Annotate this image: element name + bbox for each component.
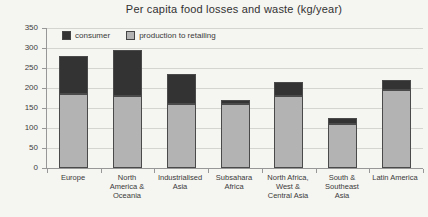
bar-segment-consumer [221,100,250,104]
x-axis-label: Europe [46,173,100,182]
x-axis-label: Industrialised Asia [153,173,207,191]
gridline [47,68,423,69]
bar-segment-production [221,104,250,168]
y-tick [42,108,46,109]
legend-label-production: production to retailing [139,31,216,40]
bar [167,74,196,168]
x-axis-label: North America & Oceania [100,173,154,200]
x-axis-label: Latin America [368,173,422,182]
y-axis-label: 100 [25,123,38,132]
plot-area [46,28,423,169]
y-tick [42,128,46,129]
y-axis-label: 50 [29,143,38,152]
bar [328,118,357,168]
x-axis-label: South & Southeast Asia [315,173,369,200]
bar-segment-production [274,96,303,168]
bar-segment-production [167,104,196,168]
bar-segment-consumer [328,118,357,124]
bar [274,82,303,168]
x-axis-labels: EuropeNorth America & OceaniaIndustriali… [46,173,422,213]
legend-item-production: production to retailing [126,31,216,40]
y-tick [42,88,46,89]
gridline [47,28,423,29]
y-tick [42,28,46,29]
bar [382,80,411,168]
food-losses-chart: Per capita food losses and waste (kg/yea… [0,0,428,217]
bar [113,50,142,168]
y-axis-label: 350 [25,23,38,32]
x-tick [423,169,424,173]
y-axis-label: 0 [34,163,38,172]
y-axis-label: 200 [25,83,38,92]
bar-segment-production [382,90,411,168]
x-axis-label: Subsahara Africa [207,173,261,191]
bar-segment-production [59,94,88,168]
legend-label-consumer: consumer [75,31,110,40]
bar [59,56,88,168]
gridline [47,88,423,89]
legend-swatch-consumer [62,31,71,40]
legend-swatch-production [126,31,135,40]
bar [221,100,250,168]
y-tick [42,148,46,149]
legend-item-consumer: consumer [62,31,110,40]
y-axis-label: 250 [25,63,38,72]
x-axis-label: North Africa, West & Central Asia [261,173,315,200]
y-axis-label: 300 [25,43,38,52]
gridline [47,48,423,49]
bar-segment-consumer [113,50,142,96]
bar-segment-consumer [59,56,88,94]
y-tick [42,48,46,49]
y-axis: 050100150200250300350 [0,28,42,168]
bar-segment-consumer [167,74,196,104]
bar-segment-production [328,124,357,168]
bar-segment-production [113,96,142,168]
bar-segment-consumer [382,80,411,90]
legend: consumer production to retailing [62,31,216,40]
y-tick [42,168,46,169]
y-axis-label: 150 [25,103,38,112]
y-tick [42,68,46,69]
bar-segment-consumer [274,82,303,96]
chart-title: Per capita food losses and waste (kg/yea… [46,3,422,15]
